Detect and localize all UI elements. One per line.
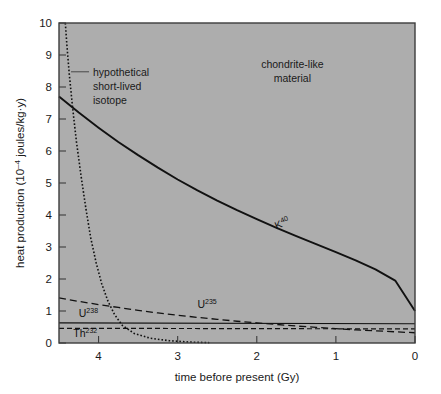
y-tick-label-4: 4 (46, 209, 53, 221)
y-tick-label-8: 8 (46, 81, 52, 93)
y-axis-title-text: heat production (10–4 joules/kg·y) (13, 98, 26, 268)
x-tick-label-3: 3 (174, 350, 180, 362)
x-tick-label-4: 4 (95, 350, 102, 362)
x-tick-label-2: 2 (254, 350, 260, 362)
chart-figure: K40U235U238Th232hypotheticalshort-livedi… (0, 0, 441, 394)
y-tick-label-5: 5 (46, 177, 52, 189)
x-tick-label-0: 0 (412, 350, 418, 362)
y-tick-label-10: 10 (39, 17, 52, 29)
y-tick-label-9: 9 (46, 49, 52, 61)
y-tick-label-2: 2 (46, 273, 52, 285)
y-tick-label-0: 0 (46, 337, 52, 349)
x-axis-title: time before present (Gy) (175, 371, 300, 383)
x-tick-label-1: 1 (333, 350, 339, 362)
heat-production-chart: K40U235U238Th232hypotheticalshort-livedi… (0, 0, 441, 394)
y-axis-title: heat production (10–4 joules/kg·y) (13, 98, 26, 268)
y-tick-label-1: 1 (46, 305, 52, 317)
y-tick-label-7: 7 (46, 113, 52, 125)
y-tick-label-6: 6 (46, 145, 52, 157)
y-tick-label-3: 3 (46, 241, 52, 253)
